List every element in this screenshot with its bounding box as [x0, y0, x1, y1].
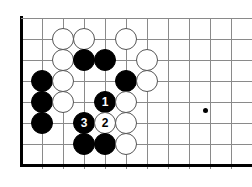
stone-black[interactable] — [31, 112, 53, 134]
stone-white[interactable] — [52, 28, 74, 50]
stone-white[interactable] — [52, 49, 74, 71]
stone-black[interactable] — [94, 133, 116, 155]
stone-white[interactable] — [136, 70, 158, 92]
stone-white[interactable] — [73, 28, 95, 50]
stone-black[interactable] — [73, 49, 95, 71]
stone-black[interactable] — [115, 70, 137, 92]
stone-white[interactable] — [52, 91, 74, 113]
move-number-label: 1 — [102, 96, 109, 108]
stone-black[interactable] — [31, 91, 53, 113]
go-board-diagram: 132 — [0, 0, 252, 187]
stone-white[interactable] — [115, 28, 137, 50]
stone-layer: 132 — [0, 0, 252, 187]
move-stone-1[interactable]: 1 — [94, 91, 116, 113]
stone-black[interactable] — [73, 133, 95, 155]
move-number-label: 2 — [102, 117, 109, 129]
stone-white[interactable] — [136, 49, 158, 71]
stone-white[interactable] — [52, 70, 74, 92]
move-stone-3[interactable]: 3 — [73, 112, 95, 134]
stone-white[interactable] — [115, 91, 137, 113]
stone-white[interactable] — [115, 112, 137, 134]
stone-black[interactable] — [31, 70, 53, 92]
stone-white[interactable] — [115, 133, 137, 155]
move-stone-2[interactable]: 2 — [94, 112, 116, 134]
move-number-label: 3 — [81, 117, 88, 129]
stone-black[interactable] — [94, 49, 116, 71]
star-point-icon — [203, 108, 208, 113]
